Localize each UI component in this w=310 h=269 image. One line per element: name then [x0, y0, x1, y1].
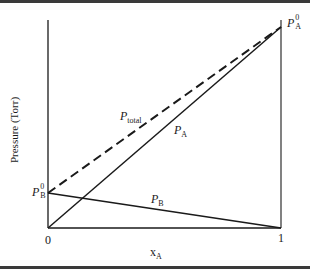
p-total-line [48, 27, 281, 193]
p-a0-label: P0A [287, 17, 302, 29]
p-a-label: PA [174, 124, 187, 139]
p-b-label: PB [151, 193, 164, 208]
x-axis-label: xA [150, 246, 162, 261]
x-axis-label-sub: A [156, 252, 162, 261]
y-axis-label: Pressure (Torr) [8, 97, 20, 163]
plot-area [0, 0, 310, 269]
x-tick-0: 0 [45, 234, 51, 246]
raoult-law-chart: Pressure (Torr) 0 1 xA Ptotal PA PB P0A … [0, 0, 310, 269]
p-b-line [48, 193, 281, 228]
x-tick-1: 1 [278, 232, 284, 244]
p-total-label: Ptotal [120, 110, 142, 125]
p-b0-label: P0B [32, 186, 47, 198]
